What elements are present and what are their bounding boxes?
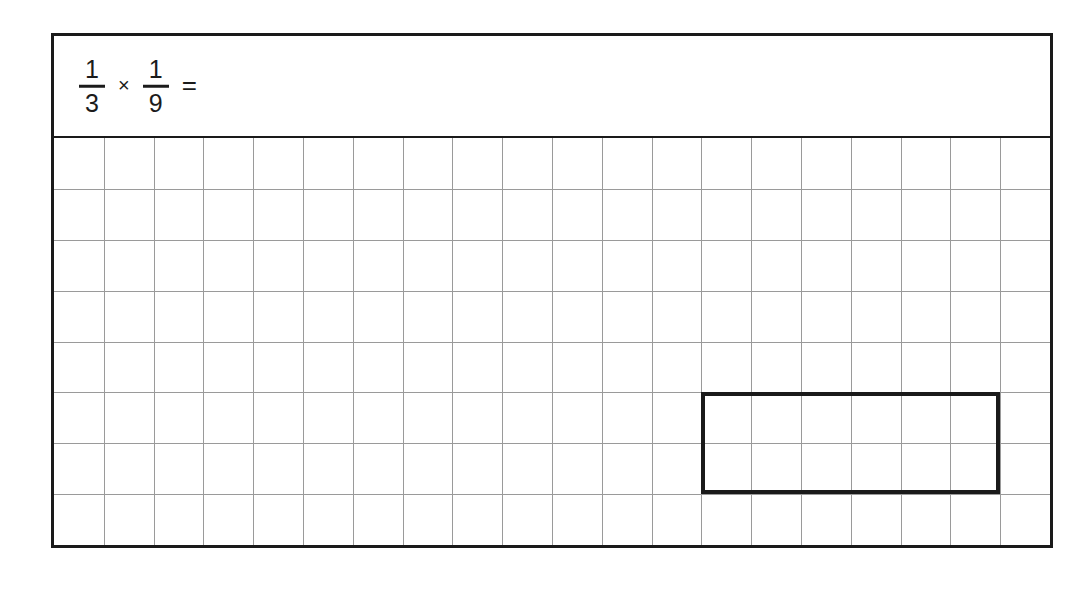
equals-sign: = <box>182 70 197 103</box>
second-fraction-denominator: 9 <box>145 89 167 116</box>
selection-rectangle[interactable] <box>701 392 1000 494</box>
second-fraction-bar <box>143 85 169 88</box>
first-fraction-bar <box>79 85 105 88</box>
problem-header: 1 3 × 1 9 = <box>54 36 1050 138</box>
second-fraction: 1 9 <box>143 56 169 117</box>
first-fraction-numerator: 1 <box>81 56 103 83</box>
multiplication-operator: × <box>118 74 130 98</box>
grid-area[interactable] <box>54 138 1050 545</box>
fraction-expression: 1 3 × 1 9 = <box>79 56 210 117</box>
first-fraction: 1 3 <box>79 56 105 117</box>
second-fraction-numerator: 1 <box>145 56 167 83</box>
worksheet-frame: 1 3 × 1 9 = <box>51 33 1053 548</box>
first-fraction-denominator: 3 <box>81 89 103 116</box>
